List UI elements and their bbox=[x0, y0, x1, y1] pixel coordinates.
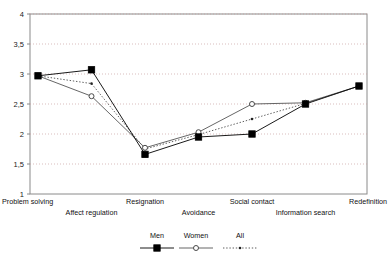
x-axis-category-label: Social contact bbox=[230, 197, 275, 206]
data-point-marker bbox=[194, 246, 199, 251]
y-axis-tick-label: 2 bbox=[20, 130, 24, 139]
y-axis-tick-label: 4 bbox=[20, 10, 24, 19]
data-point-marker bbox=[195, 134, 201, 140]
x-axis-tick-labels: Problem solvingAffect regulationResignat… bbox=[2, 197, 387, 217]
x-axis-category-label: Redefinition bbox=[349, 197, 387, 206]
y-axis-tick-label: 3 bbox=[20, 70, 24, 79]
data-point-marker bbox=[239, 247, 242, 250]
data-point-marker bbox=[143, 145, 148, 150]
x-axis-category-label: Resignation bbox=[126, 197, 164, 206]
legend-item-all[interactable]: All bbox=[223, 231, 257, 249]
x-axis-category-label: Problem solving bbox=[2, 197, 53, 206]
chart-container: 11,522,533,54 Problem solvingAffect regu… bbox=[0, 0, 389, 261]
data-point-marker bbox=[142, 151, 148, 157]
legend-label: Women bbox=[184, 231, 209, 240]
y-axis-tick-labels: 11,522,533,54 bbox=[14, 10, 24, 199]
x-axis-category-label: Avoidance bbox=[182, 208, 215, 217]
x-axis-category-label: Affect regulation bbox=[66, 208, 118, 217]
x-axis-category-label: Information search bbox=[276, 208, 336, 217]
data-point-marker bbox=[249, 131, 255, 137]
data-point-marker bbox=[35, 73, 41, 79]
data-point-marker bbox=[154, 245, 160, 251]
data-point-marker bbox=[302, 101, 308, 107]
data-point-marker bbox=[356, 83, 362, 89]
legend-item-men[interactable]: Men bbox=[140, 231, 174, 251]
legend-item-women[interactable]: Women bbox=[179, 231, 213, 251]
y-axis-tick-label: 3,5 bbox=[14, 40, 24, 49]
legend-label: All bbox=[236, 231, 244, 240]
y-axis-tick-label: 1,5 bbox=[14, 160, 24, 169]
data-point-marker bbox=[88, 67, 94, 73]
data-point-marker bbox=[90, 82, 93, 85]
y-axis-tick-label: 2,5 bbox=[14, 100, 24, 109]
line-chart: 11,522,533,54 Problem solvingAffect regu… bbox=[0, 0, 389, 261]
data-point-marker bbox=[250, 102, 255, 107]
legend-label: Men bbox=[150, 231, 164, 240]
data-point-marker bbox=[89, 94, 94, 99]
data-point-marker bbox=[251, 118, 254, 121]
chart-legend: MenWomenAll bbox=[140, 231, 257, 251]
